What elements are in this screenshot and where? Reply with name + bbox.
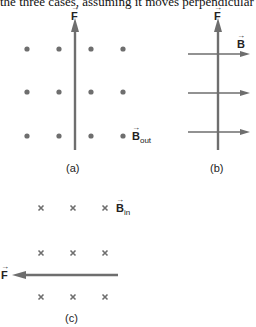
field-label-b: →B [237, 38, 245, 50]
field-in-crosses [39, 206, 108, 300]
force-label-a: →F [71, 10, 78, 22]
force-arrow-b [214, 18, 222, 150]
field-dot [24, 133, 29, 138]
field-cross [39, 251, 44, 256]
field-dot [88, 46, 93, 51]
field-dot [56, 46, 61, 51]
panel-label-c: (c) [65, 312, 78, 324]
panel-label-a: (a) [66, 162, 79, 174]
field-dot [56, 133, 61, 138]
field-arrowhead [240, 129, 250, 135]
force-arrow-c [12, 271, 118, 279]
field-cross [103, 206, 108, 211]
panel-label-b: (b) [210, 162, 223, 174]
force-label-b: →F [214, 10, 221, 22]
field-dot [120, 133, 125, 138]
field-label-c: →Bin [116, 202, 130, 217]
field-dot [24, 46, 29, 51]
field-dot [120, 46, 125, 51]
field-arrowhead [240, 90, 250, 96]
field-cross [71, 295, 76, 300]
field-dot [56, 89, 61, 94]
force-label-c: →F [1, 269, 8, 281]
field-arrowhead [240, 51, 250, 57]
field-cross [103, 295, 108, 300]
field-dot [120, 89, 125, 94]
field-label-a: →Bout [132, 130, 151, 145]
force-arrow-a [71, 18, 79, 150]
field-cross [39, 295, 44, 300]
field-dot [88, 89, 93, 94]
field-cross [71, 251, 76, 256]
field-dot [24, 89, 29, 94]
field-dot [88, 133, 93, 138]
field-cross [103, 251, 108, 256]
field-cross [39, 206, 44, 211]
field-cross [71, 206, 76, 211]
